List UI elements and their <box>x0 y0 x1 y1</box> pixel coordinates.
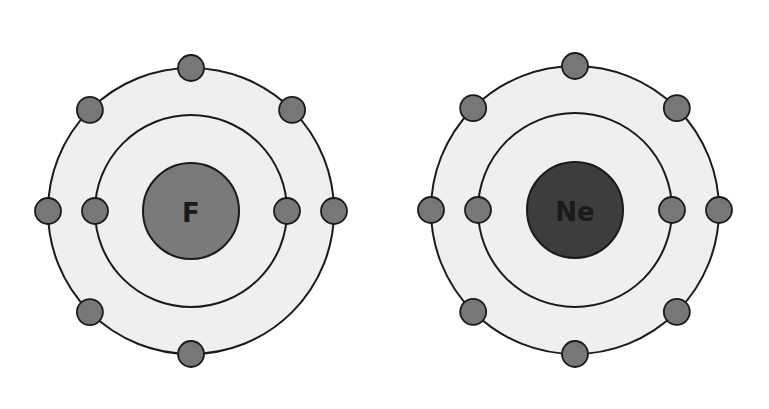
electron <box>460 299 486 325</box>
electron <box>279 97 305 123</box>
bohr-diagram: F Ne <box>0 0 769 409</box>
electron <box>178 341 204 367</box>
electron <box>460 95 486 121</box>
electron <box>418 197 444 223</box>
electron <box>562 341 588 367</box>
electron <box>178 55 204 81</box>
electron <box>321 198 347 224</box>
element-symbol: Ne <box>555 197 594 227</box>
electron <box>664 299 690 325</box>
element-symbol: F <box>182 198 200 228</box>
electron <box>664 95 690 121</box>
atom-fluorine: F <box>35 55 347 367</box>
electron <box>706 197 732 223</box>
atom-neon: Ne <box>418 53 732 367</box>
electron <box>35 198 61 224</box>
electron <box>77 97 103 123</box>
electron <box>659 197 685 223</box>
electron <box>274 198 300 224</box>
electron <box>77 299 103 325</box>
electron <box>82 198 108 224</box>
electron <box>562 53 588 79</box>
electron <box>465 197 491 223</box>
